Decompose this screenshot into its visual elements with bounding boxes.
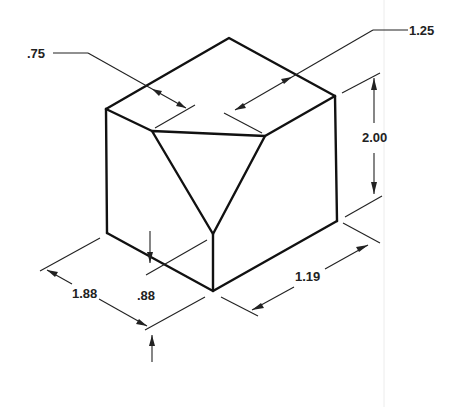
dim-200: 2.00 bbox=[342, 73, 387, 217]
dim-075: .75 bbox=[27, 46, 195, 128]
dim-label-088: .88 bbox=[137, 288, 155, 303]
right-vertical-edge bbox=[335, 96, 337, 221]
block-outline bbox=[106, 38, 337, 291]
dim-125: 1.25 bbox=[224, 23, 434, 133]
dim-label-125: 1.25 bbox=[409, 23, 434, 38]
left-vertical-edge bbox=[106, 109, 107, 233]
top-back-edges bbox=[106, 38, 335, 109]
drawing-svg: .75 1.25 2.00 1 bbox=[0, 0, 471, 407]
dim-119: 1.19 bbox=[221, 223, 380, 316]
dim-088: .88 bbox=[137, 231, 207, 362]
top-right-front-edge bbox=[265, 96, 335, 136]
chamfer-triangle bbox=[152, 131, 265, 234]
dim-188: 1.88 bbox=[40, 238, 205, 330]
dim-label-119: 1.19 bbox=[295, 269, 320, 284]
dim-label-188: 1.88 bbox=[72, 286, 97, 301]
dim-label-075: .75 bbox=[27, 46, 45, 61]
isometric-drawing: .75 1.25 2.00 1 bbox=[0, 0, 471, 407]
top-left-front-edge bbox=[106, 109, 152, 131]
dim-label-200: 2.00 bbox=[362, 130, 387, 145]
